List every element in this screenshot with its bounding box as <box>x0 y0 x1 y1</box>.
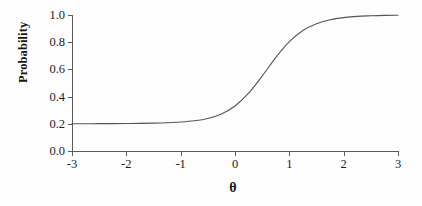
x-axis-title: θ <box>229 180 236 196</box>
y-tick-label: 0.2 <box>49 118 65 131</box>
y-tick-label: 0.8 <box>49 36 65 49</box>
item-characteristic-curve-chart: Probability θ 0.00.20.40.60.81.0 -3-2-10… <box>0 0 422 206</box>
x-tick-label: -2 <box>121 158 131 171</box>
y-tick-label: 0.0 <box>49 145 65 158</box>
probability-curve <box>72 15 399 152</box>
y-tick-label: 0.6 <box>49 63 65 76</box>
curve-path <box>72 15 398 124</box>
x-tick-label: -3 <box>67 158 77 171</box>
x-tick-label: 1 <box>286 158 292 171</box>
plot-area: 0.00.20.40.60.81.0 -3-2-10123 <box>72 15 398 151</box>
y-axis-title: Probability <box>16 22 31 83</box>
x-tick-label: 0 <box>232 158 238 171</box>
x-tick-label: 2 <box>341 158 347 171</box>
x-tick-label: -1 <box>175 158 185 171</box>
y-tick-label: 1.0 <box>49 9 65 22</box>
x-tick-label: 3 <box>395 158 401 171</box>
y-tick-label: 0.4 <box>49 90 65 103</box>
